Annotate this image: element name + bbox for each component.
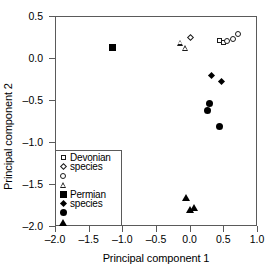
data-point-circle-open [235,31,241,37]
y-tick-label: –0.5 [0,95,43,105]
x-tick-mark [156,226,157,232]
data-point-circle-open [230,36,236,42]
x-axis-label: Principal component 1 [55,252,257,264]
data-point-circle-fill [204,107,211,114]
legend-row: species [56,199,123,209]
data-point-triangle-fill [182,194,190,201]
y-tick-label: 0.5 [0,11,43,21]
data-point-circle-open [224,38,230,44]
legend-circle-open-icon [56,171,70,181]
x-tick-mark [190,226,191,232]
data-point-diamond-fill [218,78,225,85]
data-point-triangle-fill [186,206,194,213]
y-tick-label: –1.0 [0,137,43,147]
legend-circle-fill-icon [56,208,70,218]
data-point-square-open [221,40,226,45]
data-point-circle-fill [206,100,213,107]
legend-triangle-open-icon [56,181,70,191]
data-point-square-open [217,38,222,43]
legend-row [56,217,123,227]
data-point-diamond-open [187,33,194,40]
x-tick-label: 1.0 [237,234,275,244]
data-point-triangle-open [177,40,183,46]
x-tick-mark [223,226,224,232]
legend-diamond-open-icon [56,162,70,172]
legend-triangle-fill-icon [56,217,70,227]
data-point-circle-fill [216,123,223,130]
data-point-square-fill [109,44,116,51]
legend-row [56,208,123,218]
x-tick-mark [257,226,258,232]
x-tick-mark [55,226,56,232]
legend-row: species [56,162,123,172]
y-tick-label: –1.5 [0,179,43,189]
y-tick-label: 0.0 [0,53,43,63]
x-tick-mark [122,226,123,232]
data-point-triangle-fill [190,204,198,211]
scatter-plot-figure: Principal component 2 Principal componen… [0,0,275,273]
x-tick-mark [89,226,90,232]
legend-square-fill-icon [56,190,70,200]
y-tick-label: –2.0 [0,221,43,231]
legend-row [56,171,123,181]
data-point-triangle-open [182,45,188,51]
chart-legend: DevonianspeciesPermianspecies [55,150,122,226]
legend-square-open-icon [56,153,70,163]
data-points-layer [56,17,256,29]
legend-diamond-fill-icon [56,199,70,209]
data-point-diamond-fill [208,72,215,79]
